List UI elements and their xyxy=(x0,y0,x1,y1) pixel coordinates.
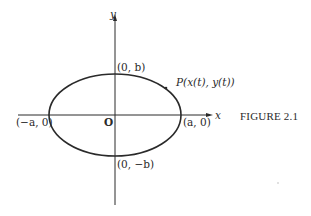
point-p-marker xyxy=(165,87,168,90)
speck-dot xyxy=(277,182,279,184)
y-axis-label: y xyxy=(109,8,117,20)
ellipse-figure: y x O (0, b) (0, −b) (−a, 0) (a, 0) P(x(… xyxy=(0,0,311,216)
x-axis-label: x xyxy=(215,109,221,121)
point-bottom-label: (0, −b) xyxy=(117,158,154,170)
moving-point-label: P(x(t), y(t)) xyxy=(175,76,235,88)
point-right-label: (a, 0) xyxy=(183,116,211,128)
point-top-label: (0, b) xyxy=(117,61,145,73)
y-axis xyxy=(113,14,117,205)
point-left-label: (−a, 0) xyxy=(16,116,53,128)
figure-caption: FIGURE 2.1 xyxy=(240,110,298,122)
origin-label: O xyxy=(104,116,113,128)
